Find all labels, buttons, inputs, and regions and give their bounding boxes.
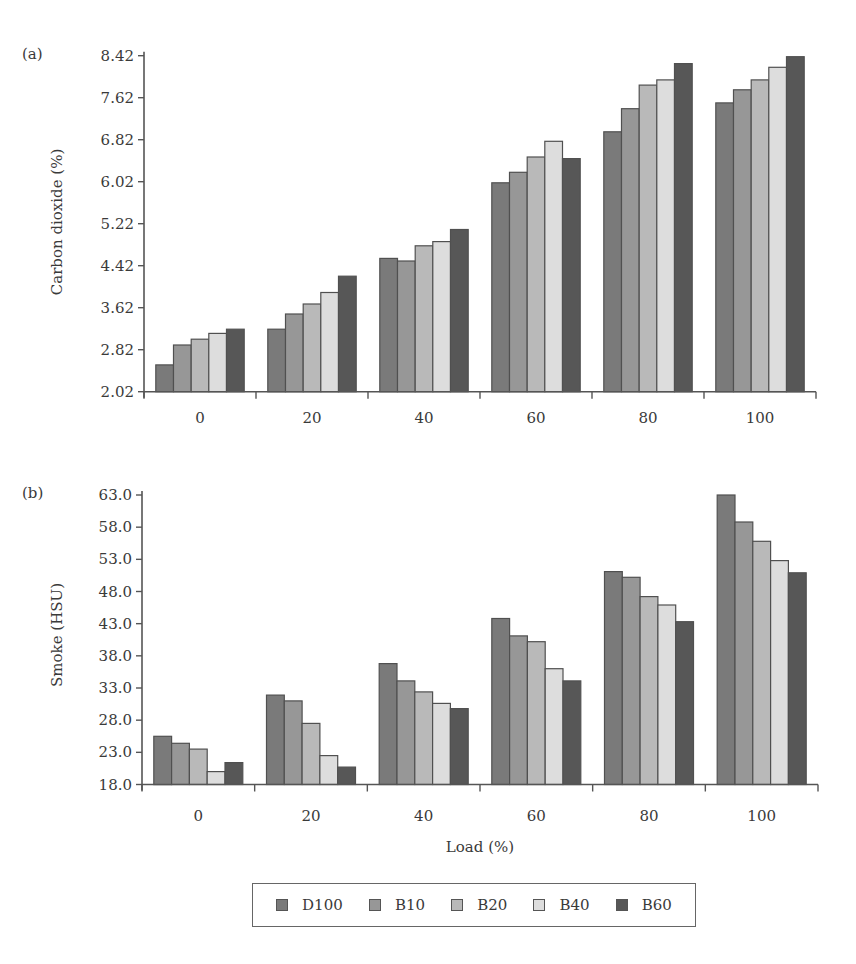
bar-b40-60 — [545, 141, 563, 391]
bar-b60-40 — [451, 230, 469, 392]
bar-b60-100 — [788, 573, 806, 785]
bar-b60-80 — [676, 622, 694, 785]
bar-b10-0 — [174, 345, 192, 392]
legend-item-b20: B20 — [451, 896, 507, 914]
x-tick-label: 80 — [639, 807, 658, 825]
x-tick-label: 0 — [195, 409, 205, 427]
bar-b60-60 — [563, 681, 581, 785]
legend-label-b10: B10 — [395, 896, 425, 914]
y-axis-title: Carbon dioxide (%) — [48, 149, 66, 296]
bar-b40-40 — [433, 242, 451, 392]
bar-b10-80 — [622, 109, 640, 392]
bar-b40-100 — [771, 561, 789, 785]
y-tick-label: 43.0 — [99, 615, 132, 633]
bar-b40-40 — [433, 703, 451, 784]
bar-b40-80 — [657, 80, 675, 392]
bar-d100-100 — [716, 103, 734, 392]
bar-b10-60 — [510, 172, 528, 391]
bar-d100-0 — [154, 736, 172, 784]
x-tick-label: 20 — [302, 409, 321, 427]
y-tick-label: 2.02 — [101, 383, 134, 401]
bar-b40-100 — [769, 67, 787, 391]
bar-b60-60 — [563, 159, 581, 392]
legend-label-b60: B60 — [642, 896, 672, 914]
legend-item-b40: B40 — [533, 896, 589, 914]
x-tick-label: 40 — [414, 807, 433, 825]
y-tick-label: 63.0 — [99, 486, 132, 504]
bar-b10-100 — [735, 522, 753, 785]
bar-b20-40 — [415, 246, 433, 392]
bar-b10-80 — [622, 577, 640, 784]
legend-swatch-b40 — [533, 899, 545, 911]
bar-b10-100 — [734, 90, 752, 392]
bar-d100-100 — [717, 495, 735, 785]
x-tick-label: 60 — [527, 807, 546, 825]
y-tick-label: 58.0 — [99, 518, 132, 536]
bar-d100-40 — [379, 664, 397, 785]
figure: (a) (b) 2.022.823.624.425.226.026.827.62… — [0, 0, 856, 964]
y-tick-label: 4.42 — [101, 257, 134, 275]
bar-b60-40 — [450, 709, 468, 785]
bar-b10-40 — [397, 681, 415, 785]
legend: D100 B10 B20 B40 B60 — [252, 883, 696, 927]
bar-d100-60 — [492, 619, 510, 785]
y-tick-label: 5.22 — [101, 215, 134, 233]
x-tick-label: 60 — [526, 409, 545, 427]
bar-d100-20 — [267, 695, 285, 784]
y-tick-label: 38.0 — [99, 647, 132, 665]
legend-label-d100: D100 — [302, 896, 343, 914]
bar-d100-80 — [605, 572, 623, 785]
chart-smoke: 18.023.028.033.038.043.048.053.058.063.0… — [0, 440, 856, 880]
x-axis-title: Load (%) — [446, 838, 514, 856]
bar-b20-0 — [189, 749, 207, 784]
bar-b20-80 — [640, 597, 658, 785]
x-tick-label: 40 — [414, 409, 433, 427]
y-tick-label: 48.0 — [99, 583, 132, 601]
bar-d100-20 — [268, 329, 286, 392]
bar-b20-40 — [415, 692, 433, 785]
bar-b40-20 — [320, 756, 338, 785]
y-tick-label: 28.0 — [99, 711, 132, 729]
x-tick-label: 100 — [747, 807, 776, 825]
x-tick-label: 80 — [638, 409, 657, 427]
legend-item-b10: B10 — [369, 896, 425, 914]
chart-carbon-dioxide: 2.022.823.624.425.226.026.827.628.420204… — [0, 0, 856, 440]
legend-swatch-d100 — [276, 899, 288, 911]
bar-b60-100 — [787, 57, 805, 392]
bar-b20-100 — [751, 80, 769, 392]
y-tick-label: 33.0 — [99, 679, 132, 697]
y-axis-title: Smoke (HSU) — [48, 583, 66, 687]
y-tick-label: 23.0 — [99, 743, 132, 761]
bar-b20-0 — [191, 339, 209, 392]
bars — [156, 57, 804, 392]
bar-b60-0 — [227, 329, 245, 392]
bar-b40-80 — [658, 605, 676, 785]
legend-label-b20: B20 — [477, 896, 507, 914]
bar-b60-0 — [225, 763, 243, 785]
bar-b20-60 — [527, 157, 545, 392]
bar-b20-60 — [527, 642, 545, 785]
bar-d100-60 — [492, 183, 510, 392]
bar-b10-20 — [286, 314, 304, 392]
y-tick-label: 6.82 — [101, 131, 134, 149]
legend-label-b40: B40 — [559, 896, 589, 914]
legend-swatch-b60 — [616, 899, 628, 911]
bar-b60-20 — [338, 767, 356, 784]
bar-b10-20 — [284, 701, 302, 785]
bar-b10-0 — [172, 743, 190, 784]
y-tick-label: 53.0 — [99, 550, 132, 568]
y-tick-label: 2.82 — [101, 341, 134, 359]
bar-b20-80 — [639, 85, 657, 392]
bar-b20-20 — [303, 304, 321, 392]
bar-b10-40 — [398, 261, 416, 392]
bar-d100-80 — [604, 132, 622, 392]
bar-b40-60 — [545, 669, 563, 785]
bar-b40-0 — [209, 333, 227, 391]
bars — [154, 495, 806, 785]
legend-item-d100: D100 — [276, 896, 343, 914]
y-tick-label: 7.62 — [101, 89, 134, 107]
y-tick-label: 3.62 — [101, 299, 134, 317]
bar-b60-20 — [339, 276, 357, 392]
bar-b40-20 — [321, 293, 339, 392]
x-tick-label: 100 — [746, 409, 775, 427]
